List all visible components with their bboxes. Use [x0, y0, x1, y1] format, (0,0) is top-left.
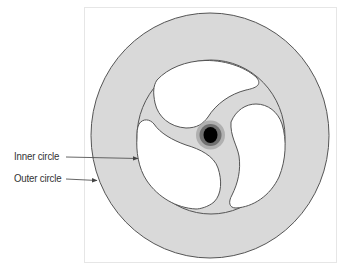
outer-circle-leader-arrow [66, 179, 97, 181]
diagram-stage: Inner circle Outer circle [0, 0, 346, 273]
hub [196, 121, 225, 150]
inner-circle-label: Inner circle [14, 150, 59, 162]
rotor-diagram [0, 0, 346, 273]
hub-core [204, 127, 218, 143]
outer-circle-label: Outer circle [14, 172, 61, 184]
